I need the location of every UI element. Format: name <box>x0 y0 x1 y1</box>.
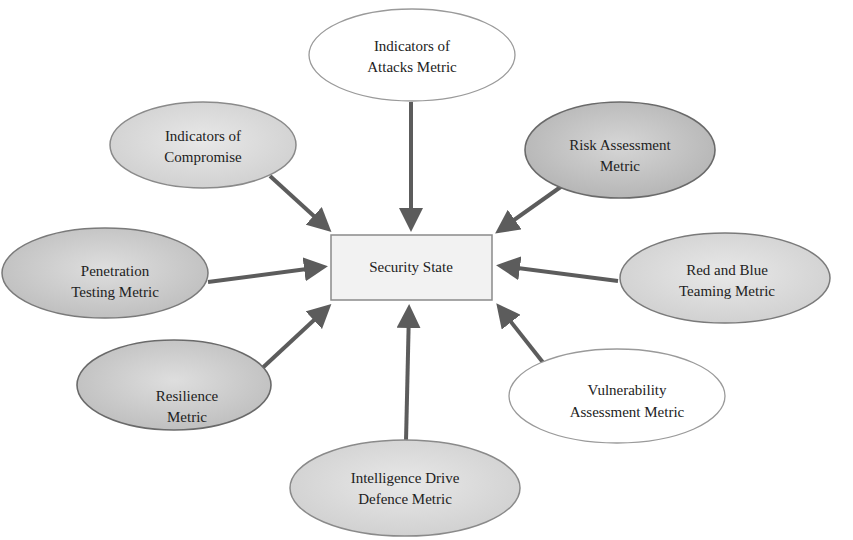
security-state-diagram: Security State Indicators of Attacks Met… <box>0 0 853 540</box>
node-label-line2: Metric <box>600 158 640 174</box>
arrow-from-penetration-testing <box>208 267 322 282</box>
arrow-from-vulnerability-assessment <box>500 308 545 365</box>
node-intelligence-drive-defence: Intelligence Drive Defence Metric <box>290 440 520 536</box>
node-label-line1: Intelligence Drive <box>351 470 460 486</box>
node-ellipse <box>110 102 296 188</box>
node-label-line2: Teaming Metric <box>679 283 775 299</box>
node-label-line2: Testing Metric <box>71 284 159 300</box>
arrow-from-risk-assessment <box>500 186 562 230</box>
node-label-line2: Assessment Metric <box>570 404 685 420</box>
node-label-line1: Risk Assessment <box>569 137 671 153</box>
node-indicators-of-attacks: Indicators of Attacks Metric <box>309 9 515 101</box>
node-ellipse <box>290 440 520 536</box>
node-label-line1: Vulnerability <box>587 382 667 398</box>
node-resilience: Resilience Metric <box>77 340 271 430</box>
node-label-line1: Indicators of <box>165 128 241 144</box>
node-ellipse <box>620 233 830 323</box>
node-label-line1: Red and Blue <box>686 262 768 278</box>
node-risk-assessment: Risk Assessment Metric <box>525 102 715 198</box>
node-ellipse <box>309 9 515 101</box>
center-node-security-state: Security State <box>331 235 492 300</box>
node-label-line2: Metric <box>167 409 207 425</box>
node-penetration-testing: Penetration Testing Metric <box>2 228 208 318</box>
node-label-line2: Defence Metric <box>358 491 452 507</box>
node-label-line2: Attacks Metric <box>367 59 457 75</box>
arrow-from-indicators-of-compromise <box>270 176 327 228</box>
arrow-from-red-and-blue-teaming <box>502 266 618 281</box>
node-label-line2: Compromise <box>164 149 242 165</box>
node-label-line1: Resilience <box>156 388 219 404</box>
node-red-and-blue-teaming: Red and Blue Teaming Metric <box>620 233 830 323</box>
node-label-line1: Indicators of <box>374 38 450 54</box>
arrow-from-resilience <box>257 308 327 373</box>
center-label: Security State <box>369 259 453 275</box>
arrow-from-intelligence-drive-defence <box>406 310 409 441</box>
node-indicators-of-compromise: Indicators of Compromise <box>110 102 296 188</box>
node-label-line1: Penetration <box>81 263 150 279</box>
node-vulnerability-assessment: Vulnerability Assessment Metric <box>509 349 725 443</box>
